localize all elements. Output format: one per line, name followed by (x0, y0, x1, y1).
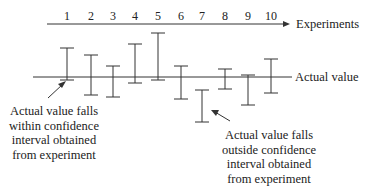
within-arrow-icon (48, 81, 66, 98)
outside-interval-note: Actual value falls outside confidence in… (216, 128, 322, 186)
experiment-number: 9 (245, 9, 251, 23)
note-line: from experiment (216, 172, 322, 187)
experiment-number: 8 (222, 9, 228, 23)
error-bar (60, 48, 74, 80)
experiment-number: 3 (110, 9, 116, 23)
outside-arrow-icon (211, 110, 230, 121)
note-line: interval obtained (4, 133, 104, 148)
note-line: Actual value falls (216, 128, 322, 143)
experiment-numbers: 12345678910 (64, 9, 277, 23)
within-interval-note: Actual value falls within confidence int… (4, 104, 104, 162)
error-bar (106, 66, 120, 97)
experiment-number: 4 (132, 9, 138, 23)
experiment-number: 7 (199, 9, 205, 23)
error-bar (84, 55, 98, 95)
error-bar (218, 69, 232, 89)
experiment-number: 6 (178, 9, 184, 23)
note-line: interval obtained (216, 157, 322, 172)
experiment-number: 2 (88, 9, 94, 23)
note-line: from experiment (4, 148, 104, 163)
note-line: within confidence (4, 119, 104, 134)
experiment-number: 10 (265, 9, 277, 23)
error-bar (264, 59, 278, 93)
error-bar (151, 33, 165, 80)
experiment-number: 1 (64, 9, 70, 23)
experiment-number: 5 (155, 9, 161, 23)
experiments-axis-label: Experiments (296, 17, 359, 31)
error-bar (174, 66, 188, 99)
axis-arrowhead-icon (283, 21, 290, 27)
note-line: Actual value falls (4, 104, 104, 119)
actual-value-label: Actual value (295, 70, 359, 84)
error-bar (195, 90, 209, 122)
note-line: outside confidence (216, 143, 322, 158)
error-bar (241, 75, 255, 105)
